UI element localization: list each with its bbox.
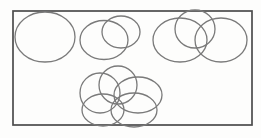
diagram-canvas: [0, 0, 261, 138]
single-ellipse-top-left-ellipse-1: [15, 12, 75, 62]
group-two-overlapping-top-middle: [80, 16, 140, 60]
group-single-ellipse-top-left: [15, 12, 75, 62]
five-ring-cluster-bottom-center-ellipse-3: [114, 77, 162, 113]
frame-rectangle: [13, 11, 252, 125]
three-overlapping-top-right-ellipse-3: [195, 18, 247, 62]
group-three-overlapping-top-right: [153, 10, 247, 62]
venn-diagram-svg: [0, 0, 261, 138]
two-overlapping-top-middle-ellipse-2: [102, 16, 140, 48]
three-overlapping-top-right-ellipse-1: [153, 18, 207, 62]
group-five-ring-cluster-bottom-center: [80, 66, 162, 127]
